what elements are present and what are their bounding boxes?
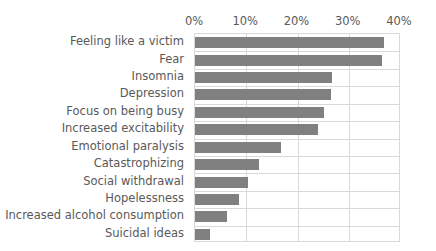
category-axis-labels: Feeling like a victimFearInsomniaDepress… <box>0 33 189 242</box>
category-label: Hopelessness <box>0 192 189 205</box>
gridline-horizontal <box>195 156 399 157</box>
gridline-horizontal <box>195 121 399 122</box>
gridline-horizontal <box>195 86 399 87</box>
bar <box>195 72 332 83</box>
category-label: Insomnia <box>0 70 189 83</box>
category-label: Focus on being busy <box>0 105 189 118</box>
bar <box>195 211 227 222</box>
category-label: Suicidal ideas <box>0 227 189 240</box>
gridline-horizontal <box>195 226 399 227</box>
category-label: Increased alcohol consumption <box>0 209 189 222</box>
gridline-horizontal <box>195 104 399 105</box>
gridline-horizontal <box>195 173 399 174</box>
bar <box>195 89 331 100</box>
bar-chart: 0%10%20%30%40% Feeling like a victimFear… <box>0 0 436 251</box>
category-label: Increased excitability <box>0 122 189 135</box>
bar <box>195 37 384 48</box>
bar <box>195 177 248 188</box>
gridline-horizontal <box>195 139 399 140</box>
bar <box>195 159 259 170</box>
gridline-horizontal <box>195 208 399 209</box>
category-label: Catastrophizing <box>0 157 189 170</box>
category-label: Feeling like a victim <box>0 35 189 48</box>
bar <box>195 124 318 135</box>
bar <box>195 107 324 118</box>
category-label: Depression <box>0 87 189 100</box>
gridline-horizontal <box>195 51 399 52</box>
x-tick-label: 40% <box>369 13 429 29</box>
gridline-horizontal <box>195 69 399 70</box>
bar <box>195 194 239 205</box>
bar <box>195 229 210 240</box>
bar <box>195 142 281 153</box>
plot-area <box>194 33 400 242</box>
category-label: Fear <box>0 53 189 66</box>
gridline-horizontal <box>195 191 399 192</box>
x-axis-tick-labels: 0%10%20%30%40% <box>0 13 436 29</box>
bar <box>195 55 382 66</box>
category-label: Social withdrawal <box>0 175 189 188</box>
category-label: Emotional paralysis <box>0 140 189 153</box>
